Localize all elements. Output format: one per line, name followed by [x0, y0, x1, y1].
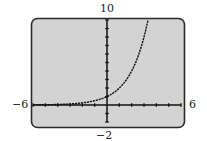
xmin-label: −6	[12, 99, 28, 110]
ymin-label: −2	[96, 130, 112, 141]
calculator-graph	[0, 0, 207, 141]
graph-screen	[32, 19, 185, 128]
ymax-label: 10	[100, 3, 114, 14]
xmax-label: 6	[189, 99, 196, 110]
